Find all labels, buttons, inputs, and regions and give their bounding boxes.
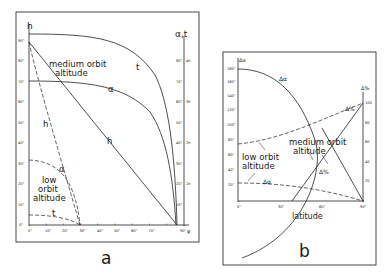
svg-text:20°: 20°	[62, 229, 69, 233]
svg-text:80°: 80°	[176, 59, 183, 63]
svg-text:60°: 60°	[131, 229, 138, 233]
svg-text:20°: 20°	[176, 182, 183, 186]
svg-text:4h: 4h	[186, 59, 191, 63]
figure: h α,t 0° 10° 20° 30° 40° 50° 60° 70° 80°…	[0, 0, 390, 277]
svg-text:80: 80	[365, 121, 370, 125]
svg-text:10°: 10°	[176, 203, 183, 207]
panel-a-label-h-medium: h	[107, 136, 112, 146]
panel-b-label-dpct-top: Δ%	[345, 105, 355, 112]
panel-a-low-label-3: altitude	[33, 193, 66, 203]
svg-text:0°: 0°	[28, 229, 32, 233]
panel-b-y-symbol: Δα	[239, 57, 246, 63]
panel-b-y-ticks: 20° 40° 60° 80° 100° 120° 140° 160° 180°	[227, 67, 236, 187]
svg-text:50°: 50°	[18, 121, 25, 125]
svg-text:120°: 120°	[227, 108, 236, 112]
svg-text:140°: 140°	[227, 94, 236, 98]
svg-text:10°: 10°	[45, 229, 52, 233]
svg-text:30°: 30°	[18, 162, 25, 166]
svg-text:3h: 3h	[186, 100, 191, 104]
svg-text:30°: 30°	[176, 162, 183, 166]
svg-text:40°: 40°	[97, 229, 104, 233]
svg-text:0°: 0°	[237, 205, 241, 209]
svg-text:90°: 90°	[360, 205, 367, 209]
svg-text:60°: 60°	[319, 205, 326, 209]
svg-text:180°: 180°	[227, 67, 236, 71]
svg-text:20°: 20°	[18, 182, 25, 186]
panel-a-label-t-medium: t	[136, 62, 140, 72]
svg-text:40: 40	[365, 160, 370, 164]
svg-text:40°: 40°	[176, 141, 183, 145]
panel-b-letter: b	[299, 241, 310, 261]
panel-a-curve-alpha-medium	[29, 81, 176, 225]
panel-a-right-ticks: 80°4h 70° 60°3h 50° 40°2h 30° 20°1h 10°	[176, 59, 191, 207]
panel-a-medium-label-2: altitude	[55, 68, 88, 78]
svg-text:70°: 70°	[149, 229, 156, 233]
panel-a: h α,t 0° 10° 20° 30° 40° 50° 60° 70° 80°…	[16, 12, 199, 268]
panel-b-label-dalpha-low: Δα	[263, 178, 271, 185]
svg-text:20: 20	[365, 179, 370, 183]
svg-text:φ: φ	[187, 228, 191, 235]
svg-text:50°: 50°	[114, 229, 121, 233]
svg-text:40°: 40°	[228, 168, 235, 172]
svg-text:20°: 20°	[228, 183, 235, 187]
svg-text:30°: 30°	[80, 229, 87, 233]
svg-text:100: 100	[365, 101, 373, 105]
svg-text:80°: 80°	[18, 59, 25, 63]
panel-b-right-ticks: 20 40 60 80 100	[365, 101, 373, 183]
svg-text:10°: 10°	[18, 203, 25, 207]
svg-text:50°: 50°	[176, 121, 183, 125]
panel-a-y-ticks: 0° 10° 20° 30° 40° 50° 60° 70° 80° 90°	[18, 39, 25, 228]
svg-text:70°: 70°	[176, 80, 183, 84]
svg-text:70°: 70°	[18, 80, 25, 84]
svg-text:30°: 30°	[278, 205, 285, 209]
svg-text:1h: 1h	[186, 182, 191, 186]
svg-text:2h: 2h	[186, 141, 191, 145]
svg-text:80°: 80°	[228, 138, 235, 142]
svg-text:60°: 60°	[176, 100, 183, 104]
svg-text:90°: 90°	[18, 39, 25, 43]
panel-a-label-alpha-low: α	[59, 164, 65, 174]
panel-b-medium-label-2: altitude	[293, 146, 326, 156]
panel-b-right-symbol: Δ%	[361, 85, 369, 91]
svg-text:0°: 0°	[19, 223, 23, 227]
svg-text:60: 60	[365, 140, 370, 144]
panel-a-label-h-low: h	[43, 119, 48, 129]
svg-text:60°: 60°	[228, 153, 235, 157]
panel-b-curve-dalpha-low	[238, 183, 363, 201]
panel-a-x-ticks: 0° 10° 20° 30° 40° 50° 60° 70° 90° φ	[28, 228, 191, 235]
panel-a-letter: a	[101, 248, 111, 268]
panel-b: Δα Δ% 20° 40° 60° 80° 100° 120° 140° 160…	[223, 52, 376, 265]
panel-a-right-symbol: α,t	[175, 29, 188, 39]
panel-a-y-symbol: h	[27, 21, 33, 31]
svg-text:100°: 100°	[227, 123, 236, 127]
svg-text:60°: 60°	[18, 100, 25, 104]
svg-text:90°: 90°	[180, 229, 187, 233]
panel-a-label-alpha-medium: α	[108, 84, 114, 94]
panel-b-low-label-2: altitude	[242, 161, 275, 171]
panel-b-label-dalpha-medium: Δα	[279, 75, 287, 82]
svg-text:160°: 160°	[227, 80, 236, 84]
panel-b-label-dpct-mid: Δ%	[319, 168, 329, 175]
svg-text:40°: 40°	[18, 141, 25, 145]
